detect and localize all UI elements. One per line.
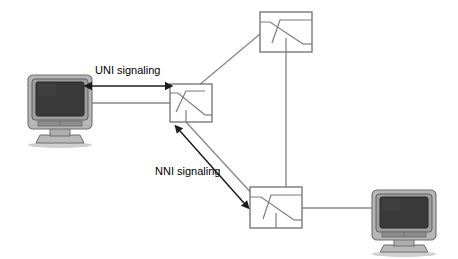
- switch-center[interactable]: [170, 84, 212, 122]
- monitor-left-screen-glare: [38, 84, 56, 96]
- uni-annotation: UNI signaling: [92, 64, 165, 86]
- edge-switch-center-switch-top: [198, 29, 266, 86]
- diagram-canvas: UNI signaling NNI signaling: [0, 0, 458, 259]
- switch-top[interactable]: [260, 12, 312, 52]
- uni-signaling-label: UNI signaling: [95, 64, 160, 76]
- network-diagram: UNI signaling NNI signaling: [0, 0, 458, 259]
- monitor-right-screen-glare: [382, 199, 400, 210]
- nni-signaling-label: NNI signaling: [155, 165, 220, 177]
- monitor-left[interactable]: [28, 75, 92, 148]
- monitor-right[interactable]: [372, 190, 436, 257]
- switch-bottom[interactable]: [250, 187, 302, 228]
- nni-annotation: NNI signaling: [155, 131, 244, 203]
- edge-switch-center-switch-bottom: [186, 122, 254, 196]
- edge-layer: [88, 29, 380, 208]
